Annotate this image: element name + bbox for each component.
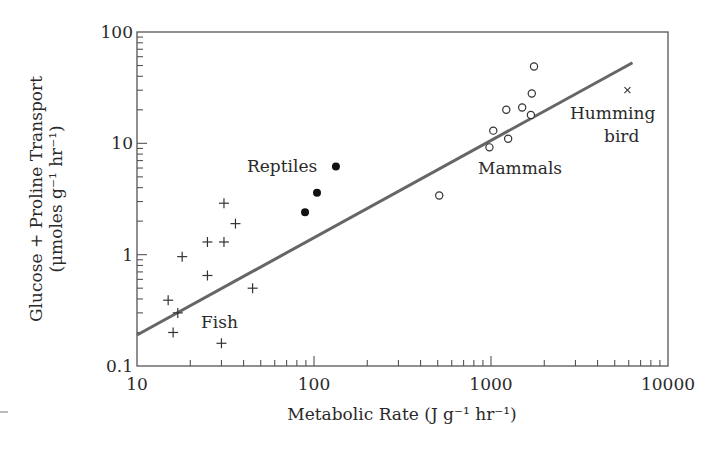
label-fish: Fish (201, 312, 238, 332)
fish-point (219, 198, 229, 208)
fish-point (202, 270, 212, 280)
y-axis-title-line1: Glucose + Proline Transport (26, 76, 46, 322)
x-tick-label: 100 (298, 374, 330, 394)
mammals-point (490, 127, 497, 134)
fish-point (219, 237, 229, 247)
y-axis-title-line2: (μmoles g⁻¹ hr⁻¹) (46, 125, 66, 272)
mammals-point (519, 104, 526, 111)
regression-line (137, 63, 632, 335)
reptiles-point (332, 162, 340, 170)
reptiles-point (301, 208, 309, 216)
data-points (163, 63, 630, 348)
fish-point (202, 237, 212, 247)
fish-point (216, 338, 226, 348)
x-tick-label: 10000 (641, 374, 695, 394)
label-bird: bird (604, 126, 639, 146)
y-tick-label: 100 (101, 22, 133, 42)
humming-bird-point (624, 87, 630, 93)
scatter-chart: 101001000100000.1110100 Fish Reptiles Ma… (0, 0, 721, 456)
label-humming: Humming (570, 103, 655, 123)
y-tick-label: 10 (111, 133, 133, 153)
reptiles-point (313, 189, 321, 197)
mammals-point (503, 106, 510, 113)
mammals-point (527, 111, 534, 118)
y-axis-title: Glucose + Proline Transport (μmoles g⁻¹ … (26, 76, 66, 322)
fish-point (230, 219, 240, 229)
fish-point (168, 327, 178, 337)
mammals-point (530, 63, 537, 70)
fish-point (163, 295, 173, 305)
mammals-point (528, 90, 535, 97)
mammals-point (505, 135, 512, 142)
y-tick-label: 0.1 (106, 356, 133, 376)
label-mammals: Mammals (478, 158, 562, 178)
fish-point (248, 283, 258, 293)
x-tick-label: 10 (126, 374, 148, 394)
x-axis-title: Metabolic Rate (J g⁻¹ hr⁻¹) (287, 404, 516, 424)
mammals-point (486, 144, 493, 151)
x-tick-label: 1000 (469, 374, 512, 394)
y-tick-label: 1 (122, 245, 133, 265)
label-reptiles: Reptiles (247, 156, 317, 176)
fish-point (177, 252, 187, 262)
mammals-point (436, 192, 443, 199)
